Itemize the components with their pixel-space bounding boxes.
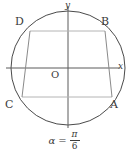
- vertex-label-c: C: [5, 99, 13, 110]
- y-axis-label: y: [65, 1, 70, 10]
- side-dc: [22, 31, 30, 97]
- caption-variable: α: [48, 135, 55, 146]
- vertex-label-d: D: [15, 16, 24, 27]
- caption-equals: =: [58, 135, 66, 146]
- caption: α = π 6: [0, 130, 128, 151]
- x-axis-label: x: [118, 62, 123, 71]
- vertex-label-a: A: [110, 99, 118, 110]
- side-ba: [105, 31, 112, 97]
- caption-equation: α = π 6: [48, 130, 79, 151]
- vertex-label-b: B: [101, 16, 109, 27]
- origin-label: O: [51, 70, 59, 80]
- caption-fraction: π 6: [70, 130, 80, 151]
- fraction-numerator: π: [70, 130, 80, 140]
- fraction-denominator: 6: [70, 141, 80, 151]
- geometry-figure: D B C A O y x α = π 6: [0, 0, 128, 151]
